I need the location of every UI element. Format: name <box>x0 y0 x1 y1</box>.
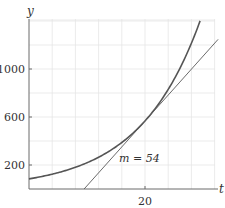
x-tick-label-20: 20 <box>138 195 152 208</box>
y-tick-label-600: 600 <box>4 111 25 124</box>
y-axis-label: y <box>26 4 34 18</box>
y-tick-label-1000: 1000 <box>0 63 25 76</box>
tangent-line <box>84 39 218 189</box>
x-axis-label: t <box>219 182 224 196</box>
y-tick-label-200: 200 <box>4 159 25 172</box>
slope-annotation: m = 54 <box>119 152 160 165</box>
chart: 20 200 600 1000 t y m = 54 <box>0 0 225 208</box>
